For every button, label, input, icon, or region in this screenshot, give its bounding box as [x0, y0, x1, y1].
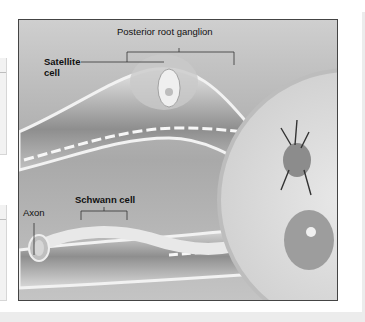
label-axon: Axon — [23, 208, 45, 218]
label-posterior-root-ganglion: Posterior root ganglion — [117, 27, 213, 37]
panel-divider — [0, 219, 6, 220]
label-satellite-cell-line2: cell — [44, 68, 60, 78]
panel-divider — [0, 72, 6, 73]
bottom-edge-strip — [0, 312, 365, 322]
left-panel-top — [0, 58, 7, 155]
label-schwann-cell: Schwann cell — [75, 195, 135, 205]
nerve-anatomy-illustration: Posterior root ganglion Satellite cell S… — [18, 19, 338, 301]
label-satellite-cell-line1: Satellite — [44, 57, 80, 67]
left-panel-bottom — [0, 205, 7, 301]
